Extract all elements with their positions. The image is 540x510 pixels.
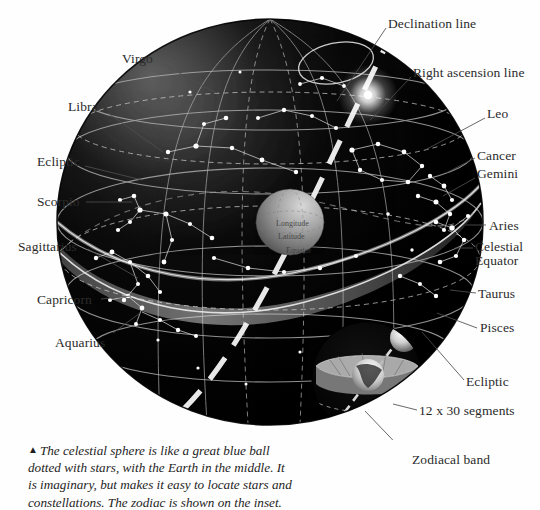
label-scorpio: Scorpio xyxy=(37,195,80,209)
caption-text: The celestial sphere is like a great blu… xyxy=(28,443,292,510)
figure-artwork: Virgo Libra Ecliptic Scorpio Sagittarius… xyxy=(0,0,540,440)
label-libra: Libra xyxy=(68,100,98,114)
label-ecliptic: Ecliptic xyxy=(37,155,80,169)
label-declination-line: Declination line xyxy=(388,17,476,31)
label-virgo: Virgo xyxy=(122,52,153,66)
label-cancer: Cancer xyxy=(477,149,516,163)
bright-star-glow xyxy=(338,65,398,125)
figure-caption: ▲The celestial sphere is like a great bl… xyxy=(28,441,296,510)
label-celestial-equator: Celestial Equator xyxy=(475,240,523,268)
label-pisces: Pisces xyxy=(480,321,514,335)
label-gemini: Gemini xyxy=(477,167,518,181)
zodiac-inset xyxy=(312,322,422,432)
label-latitude: Latitude xyxy=(278,232,305,241)
label-capricorn: Capricorn xyxy=(37,293,92,307)
leader-line-twelve-segments xyxy=(393,404,417,410)
label-taurus: Taurus xyxy=(478,287,515,301)
label-aries: Aries xyxy=(489,219,519,233)
label-right-ascension-line: Right ascension line xyxy=(413,66,524,80)
label-twelve-segments: 12 x 30 segments xyxy=(419,404,515,418)
label-equator: Equator xyxy=(286,246,311,255)
caption-triangle-icon: ▲ xyxy=(28,444,38,455)
label-longitude: Longitude xyxy=(276,219,309,228)
label-leo: Leo xyxy=(487,107,508,121)
celestial-sphere-figure-page: Virgo Libra Ecliptic Scorpio Sagittarius… xyxy=(0,0,540,510)
label-aquarius: Aquarius xyxy=(55,336,105,350)
label-zodiacal-band: Zodiacal band xyxy=(412,453,490,467)
label-ecliptic-right: Ecliptic xyxy=(466,375,509,389)
leader-line-zodiacal-band xyxy=(365,411,410,440)
label-sagittarius: Sagittarius xyxy=(18,240,77,254)
